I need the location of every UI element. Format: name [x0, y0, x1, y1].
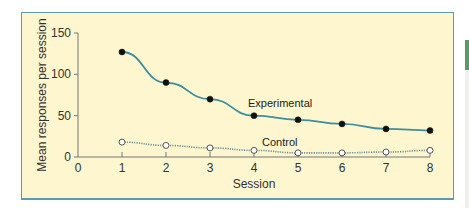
x-axis-title: Session [233, 177, 276, 191]
filled-circle-marker-icon [427, 128, 433, 134]
x-tick-label: 2 [163, 161, 170, 175]
x-tick-label: 3 [207, 161, 214, 175]
y-axis-title: Mean responses per session [35, 18, 49, 171]
line-chart: 050100150012345678 Session Mean response… [0, 0, 469, 208]
open-circle-marker-icon [295, 150, 301, 156]
x-tick-label: 7 [383, 161, 390, 175]
open-circle-marker-icon [119, 139, 125, 145]
filled-circle-marker-icon [295, 117, 301, 123]
y-tick-label: 100 [51, 67, 71, 81]
y-tick-label: 50 [58, 109, 72, 123]
x-tick-label: 5 [295, 161, 302, 175]
y-tick-label: 150 [51, 26, 71, 40]
x-tick-label: 1 [119, 161, 126, 175]
x-tick-label: 8 [427, 161, 434, 175]
x-tick-label: 4 [251, 161, 258, 175]
open-circle-marker-icon [163, 142, 169, 148]
experimental-line [122, 52, 430, 131]
x-tick-label: 6 [339, 161, 346, 175]
open-circle-marker-icon [251, 147, 257, 153]
filled-circle-marker-icon [251, 113, 257, 119]
filled-circle-marker-icon [207, 96, 213, 102]
control-series-label: Control [262, 136, 297, 148]
filled-circle-marker-icon [163, 80, 169, 86]
y-tick-label: 0 [64, 150, 71, 164]
experimental-series-label: Experimental [248, 97, 312, 109]
open-circle-marker-icon [207, 145, 213, 151]
x-tick-label: 0 [75, 161, 82, 175]
open-circle-marker-icon [339, 150, 345, 156]
open-circle-marker-icon [427, 147, 433, 153]
open-circle-marker-icon [383, 149, 389, 155]
filled-circle-marker-icon [383, 126, 389, 132]
filled-circle-marker-icon [119, 49, 125, 55]
filled-circle-marker-icon [339, 121, 345, 127]
